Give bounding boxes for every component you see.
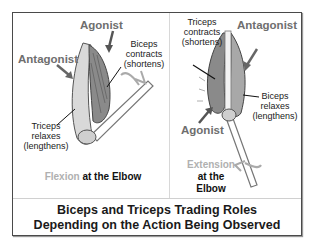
extension-action-label: Extension at the Elbow <box>181 159 241 195</box>
antagonist-label: Antagonist <box>18 53 78 65</box>
agonist-label: Agonist <box>181 124 224 136</box>
agonist-label: Agonist <box>80 19 123 31</box>
figure-caption: Biceps and Triceps Trading Roles Dependi… <box>13 203 301 233</box>
triceps-contracts-note: Triceps contracts (shortens) <box>175 17 229 47</box>
panel-divider-vertical <box>169 13 170 198</box>
triceps-relaxes-note: Triceps relaxes (lengthens) <box>19 121 73 151</box>
biceps-relaxes-note: Biceps relaxes (lengthens) <box>249 91 301 121</box>
diagram-frame: Agonist Antagonist Biceps contracts (sho… <box>12 12 302 236</box>
antagonist-label: Antagonist <box>237 19 297 31</box>
biceps-contracts-note: Biceps contracts (shortens) <box>117 39 171 69</box>
flexion-action-label: Flexion at the Elbow <box>33 171 153 183</box>
caption-divider <box>13 198 301 199</box>
